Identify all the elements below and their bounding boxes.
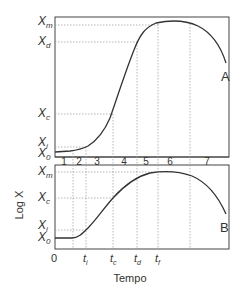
svg-text:7: 7 xyxy=(204,156,210,167)
x-axis-title: Tempo xyxy=(113,272,146,284)
tick-xc-a: Xc xyxy=(37,106,50,122)
panel-a-frame xyxy=(55,17,229,157)
panel-a-y-labels: Xm Xd Xc Xi X0 xyxy=(37,14,53,162)
svg-text:2: 2 xyxy=(76,156,82,167)
svg-text:3: 3 xyxy=(94,156,100,167)
tick-x0-b: X0 xyxy=(37,230,51,246)
growth-curve-diagram: Xm Xd Xc Xi X0 1 2 3 4 5 6 7 Xm Xc Xi X0… xyxy=(0,0,242,294)
tick-xm-a: Xm xyxy=(37,14,53,30)
curve-a-label: A xyxy=(221,69,230,84)
curve-b xyxy=(55,172,226,238)
panel-b-frame xyxy=(55,165,229,249)
tick-xc-b: Xc xyxy=(37,190,50,206)
panel-b-y-labels: Xm Xc Xi X0 xyxy=(37,164,53,246)
svg-text:6: 6 xyxy=(167,156,173,167)
curve-b-label: B xyxy=(220,220,229,235)
tick-ti: ti xyxy=(83,252,88,266)
svg-text:5: 5 xyxy=(143,156,149,167)
svg-text:1: 1 xyxy=(61,156,67,167)
svg-text:4: 4 xyxy=(121,156,127,167)
panel-a-reference-lines xyxy=(55,25,160,147)
tick-td: td xyxy=(134,252,142,266)
tick-x0-a: X0 xyxy=(37,146,51,162)
tick-tc: tc xyxy=(110,252,117,266)
y-axis-title: Log X xyxy=(13,190,25,219)
x-axis-labels: 0 ti tc td tf xyxy=(51,252,161,266)
curve-a xyxy=(55,21,226,152)
tick-xd-a: Xd xyxy=(37,34,51,50)
tick-0: 0 xyxy=(51,252,57,264)
tick-tf: tf xyxy=(155,252,161,266)
tick-xm-b: Xm xyxy=(37,164,53,180)
